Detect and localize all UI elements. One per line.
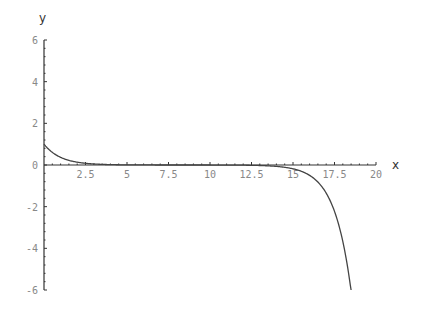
- chart: 2.557.51012.51517.5206420-2-4-6 x y: [0, 0, 421, 310]
- x-tick-label: 5: [124, 169, 130, 180]
- x-tick-label: 2.5: [76, 169, 94, 180]
- y-tick-label: -4: [26, 243, 38, 254]
- x-tick-label: 7.5: [159, 169, 177, 180]
- y-axis-label: y: [39, 11, 46, 25]
- x-tick-label: 17.5: [322, 169, 346, 180]
- x-tick-label: 15: [287, 169, 299, 180]
- y-tick-label: -2: [26, 202, 38, 213]
- y-tick-label: 0: [32, 160, 38, 171]
- function-curve: [44, 144, 351, 290]
- y-tick-label: 6: [32, 35, 38, 46]
- y-tick-label: -6: [26, 285, 38, 296]
- x-axis-label: x: [392, 158, 399, 172]
- y-tick-label: 2: [32, 118, 38, 129]
- x-tick-label: 12.5: [239, 169, 263, 180]
- y-tick-label: 4: [32, 77, 38, 88]
- x-tick-label: 10: [204, 169, 216, 180]
- x-tick-label: 20: [370, 169, 382, 180]
